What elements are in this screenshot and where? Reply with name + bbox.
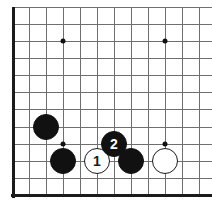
- grid-line-horizontal-2: [12, 41, 212, 42]
- grid-line-horizontal-4: [12, 75, 212, 76]
- stone-black-lower-center[interactable]: [118, 148, 144, 174]
- grid-line-vertical-6: [114, 7, 115, 195]
- stone-move-number: 2: [110, 137, 118, 151]
- grid-line-vertical-8: [148, 7, 149, 195]
- stone-move-number: 1: [93, 154, 101, 168]
- grid-line-vertical-11: [199, 7, 200, 195]
- grid-line-vertical-10: [182, 7, 183, 195]
- star-point-upper-left: [61, 39, 66, 44]
- bottom-edge: [11, 194, 212, 197]
- star-point-lower-right: [163, 142, 168, 147]
- star-point-upper-right: [163, 39, 168, 44]
- grid-line-horizontal-3: [12, 58, 212, 59]
- go-board[interactable]: 12: [0, 0, 212, 207]
- stone-white-lower-right[interactable]: [152, 148, 178, 174]
- grid-line-vertical-1: [29, 7, 30, 195]
- star-point-lower-left: [61, 142, 66, 147]
- left-edge: [12, 7, 15, 198]
- grid-line-horizontal-9: [12, 161, 212, 162]
- grid-line-horizontal-10: [12, 178, 212, 179]
- grid-line-horizontal-5: [12, 92, 212, 93]
- grid-line-vertical-4: [80, 7, 81, 195]
- stone-black-lower-left[interactable]: [50, 148, 76, 174]
- go-diagram-figure: 12: [0, 0, 212, 207]
- grid-line-horizontal-6: [12, 109, 212, 110]
- grid-line-horizontal-1: [12, 24, 212, 25]
- stone-black-upper-left[interactable]: [33, 114, 59, 140]
- grid-line-horizontal-0: [12, 7, 212, 8]
- grid-line-vertical-2: [46, 7, 47, 195]
